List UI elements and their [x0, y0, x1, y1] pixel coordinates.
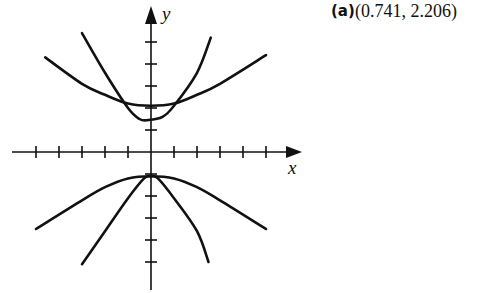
graph: y x — [0, 0, 485, 293]
upper-wide-curve — [45, 55, 266, 106]
intersection-coordinates: (0.741, 2.206) — [355, 1, 457, 22]
y-axis-label: y — [160, 3, 171, 24]
y-axis-arrow-icon — [145, 6, 157, 24]
x-axis-label: x — [287, 157, 297, 178]
part-label: (a) — [331, 2, 355, 20]
